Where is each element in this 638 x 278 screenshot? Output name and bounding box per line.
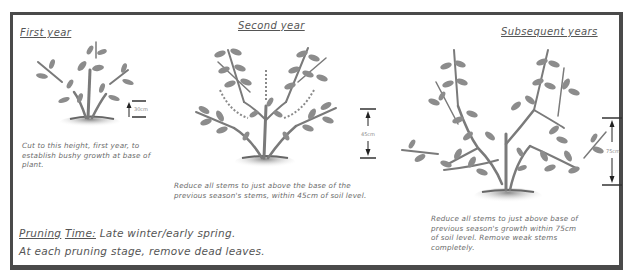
pruning-time-note: Pruning Time: Late winter/early spring. xyxy=(19,225,236,242)
time-label: Time: xyxy=(65,227,96,239)
first-year-caption: Cut to this height, first year, to estab… xyxy=(22,141,170,170)
first-year-height-marker: 30cm xyxy=(122,97,162,121)
second-year-caption: Reduce all stems to just above the base … xyxy=(174,181,374,200)
pruning-label: Pruning xyxy=(19,227,61,239)
second-year-plant-illustration xyxy=(190,42,340,172)
stage-title-first-year: First year xyxy=(20,27,71,38)
pruning-time-value: Late winter/early spring. xyxy=(100,227,236,239)
stage-title-second-year: Second year xyxy=(238,20,305,31)
second-year-height-marker: 45cm xyxy=(356,106,386,162)
subsequent-years-measurement-label: 75cm xyxy=(606,148,620,154)
second-year-measurement-label: 45cm xyxy=(361,131,375,137)
stage-title-subsequent-years: Subsequent years xyxy=(501,26,598,37)
subsequent-years-caption: Reduce all stems to just above base of p… xyxy=(431,214,581,252)
dead-leaves-note: At each pruning stage, remove dead leave… xyxy=(19,243,265,260)
subsequent-years-height-marker: 75cm xyxy=(600,114,630,190)
first-year-measurement-label: 30cm xyxy=(134,106,148,112)
subsequent-years-plant-illustration xyxy=(398,44,608,210)
